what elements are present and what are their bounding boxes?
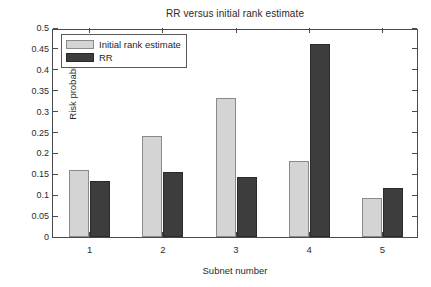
y-tick-mark (53, 195, 58, 196)
x-tick-label: 1 (70, 244, 110, 256)
x-tick-mark-top (162, 28, 163, 33)
bar-initial-rank-estimate-subnet-1 (69, 170, 89, 237)
y-tick-mark-right (412, 195, 417, 196)
legend-swatch-icon-rr (66, 53, 94, 62)
bar-rr-subnet-1 (90, 181, 110, 237)
y-tick-mark (53, 69, 58, 70)
y-tick-mark (53, 153, 58, 154)
y-tick-mark-right (412, 69, 417, 70)
x-tick-mark-top (89, 28, 90, 33)
y-tick-label: 0.35 (31, 85, 49, 97)
y-tick-label: 0.5 (36, 22, 49, 34)
y-tick-label: 0.1 (36, 189, 49, 201)
x-axis-label: Subnet number (52, 265, 418, 276)
legend: Initial rank estimate RR (61, 34, 187, 68)
x-tick-label: 4 (289, 244, 329, 256)
bar-chart-figure: RR versus initial rank estimate Risk pro… (0, 0, 431, 287)
y-tick-mark-right (412, 153, 417, 154)
y-tick-mark-right (412, 174, 417, 175)
x-tick-mark-top (309, 28, 310, 33)
bar-initial-rank-estimate-subnet-2 (142, 136, 162, 237)
y-tick-mark (53, 48, 58, 49)
y-tick-mark-right (412, 28, 417, 29)
y-tick-label: 0 (44, 231, 49, 243)
y-tick-label: 0.05 (31, 210, 49, 222)
y-tick-mark (53, 216, 58, 217)
bar-rr-subnet-5 (383, 188, 403, 237)
y-tick-mark-right (412, 132, 417, 133)
y-tick-label: 0.3 (36, 106, 49, 118)
legend-swatch-icon-initial-rank-estimate (66, 40, 94, 49)
legend-item-initial-rank-estimate: Initial rank estimate (66, 38, 181, 51)
y-tick-mark (53, 132, 58, 133)
bar-initial-rank-estimate-subnet-5 (362, 198, 382, 237)
bar-rr-subnet-4 (310, 44, 330, 237)
x-tick-label: 2 (143, 244, 183, 256)
y-tick-mark (53, 237, 58, 238)
x-tick-mark-top (236, 28, 237, 33)
y-tick-label: 0.15 (31, 168, 49, 180)
y-tick-label: 0.2 (36, 147, 49, 159)
y-tick-mark-right (412, 48, 417, 49)
y-tick-mark (53, 90, 58, 91)
y-tick-mark (53, 28, 58, 29)
x-tick-label: 5 (362, 244, 402, 256)
y-tick-mark-right (412, 111, 417, 112)
plot-area: Risk probability 00.050.10.150.20.250.30… (52, 29, 418, 238)
bar-initial-rank-estimate-subnet-4 (289, 161, 309, 237)
x-tick-mark-top (382, 28, 383, 33)
y-tick-mark-right (412, 237, 417, 238)
legend-item-rr: RR (66, 51, 181, 64)
y-tick-mark (53, 111, 58, 112)
y-tick-mark-right (412, 90, 417, 91)
bar-rr-subnet-2 (163, 172, 183, 237)
x-tick-label: 3 (216, 244, 256, 256)
y-tick-label: 0.25 (31, 127, 49, 139)
chart-title: RR versus initial rank estimate (52, 8, 418, 20)
legend-label-rr: RR (99, 52, 113, 63)
legend-label-initial-rank-estimate: Initial rank estimate (99, 39, 181, 50)
y-tick-mark (53, 174, 58, 175)
y-tick-label: 0.45 (31, 43, 49, 55)
bar-rr-subnet-3 (237, 177, 257, 237)
bar-initial-rank-estimate-subnet-3 (216, 98, 236, 237)
y-tick-mark-right (412, 216, 417, 217)
y-tick-label: 0.4 (36, 64, 49, 76)
